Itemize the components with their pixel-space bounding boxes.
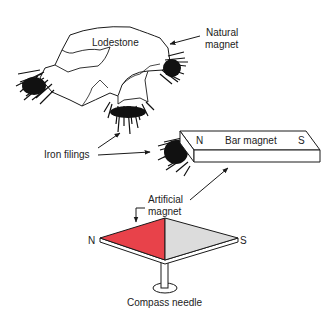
- magnetism-diagram: N Bar magnet S Lodestone Natural magnet …: [0, 0, 335, 317]
- iron-filings-arrow-lodestone: [98, 133, 120, 148]
- bar-magnet-north-label: N: [196, 135, 203, 146]
- compass-south-label: S: [240, 235, 247, 246]
- artificial-magnet-arrow-bar: [190, 168, 228, 200]
- bar-magnet-south-label: S: [298, 135, 305, 146]
- compass-needle-label: Compass needle: [127, 297, 202, 308]
- compass-north-half: [100, 218, 165, 260]
- bar-magnet-label: Bar magnet: [225, 135, 277, 146]
- compass-needle: [100, 218, 238, 293]
- compass-north-label: N: [88, 235, 95, 246]
- iron-filings-label: Iron filings: [44, 149, 90, 160]
- artificial-magnet-label-line1: Artificial: [148, 194, 183, 205]
- lodestone-label: Lodestone: [92, 37, 139, 48]
- iron-filings-arrow-bar: [98, 152, 150, 155]
- natural-magnet-label-line1: Natural: [206, 27, 238, 38]
- artificial-magnet-arrow-compass: [136, 208, 145, 222]
- compass-south-half: [165, 218, 238, 260]
- iron-filings-bottom: [104, 102, 154, 134]
- natural-magnet-label-line2: magnet: [205, 39, 239, 50]
- natural-magnet-arrow: [170, 36, 200, 44]
- artificial-magnet-label-line2: magnet: [148, 206, 182, 217]
